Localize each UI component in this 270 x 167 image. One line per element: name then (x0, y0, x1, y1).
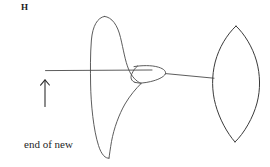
new-thread-loop-left-path (90, 16, 109, 158)
lens-loop-right-path (235, 26, 260, 142)
lens-loop-left-path (213, 26, 236, 142)
new-thread-loop-right-path (105, 16, 142, 83)
caption-block: end of new thread (13, 121, 73, 167)
new-thread-lower-tail-path (109, 84, 141, 159)
existing-thread-right-path (166, 74, 214, 79)
knot-tail-path (131, 66, 138, 82)
knot-loop-lower-path (135, 74, 165, 83)
panel-label: H (21, 3, 28, 12)
existing-thread-left-path (46, 70, 153, 71)
caption-line-1: end of new (24, 138, 73, 150)
figure-container: H end of new thread (0, 0, 270, 167)
